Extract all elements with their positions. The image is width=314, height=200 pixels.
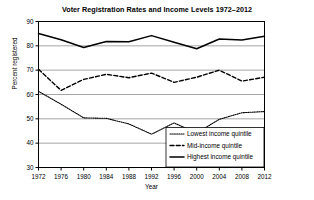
y-tick-label: 50: [26, 115, 34, 122]
x-tick-label: 1984: [99, 173, 114, 180]
y-tick-label: 90: [26, 18, 34, 25]
y-tick-label: 30: [26, 164, 34, 171]
x-tick-label: 1988: [122, 173, 137, 180]
y-tick-label: 70: [26, 66, 34, 73]
y-tick-label: 40: [26, 139, 34, 146]
y-tick-label: 60: [26, 91, 34, 98]
y-tick-label: 80: [26, 42, 34, 49]
series-line: [39, 33, 265, 48]
x-tick-label: 2000: [190, 173, 205, 180]
x-tick-label: 2012: [257, 173, 272, 180]
x-axis-ticks: 1972197619801984198819921996200020042008…: [31, 168, 272, 180]
y-axis-ticks: 30405060708090: [26, 18, 38, 171]
legend-label: Mid-income quintile: [187, 142, 242, 150]
x-tick-label: 1980: [77, 173, 92, 180]
x-tick-label: 2004: [212, 173, 227, 180]
x-tick-label: 2008: [235, 173, 250, 180]
legend-label: Highest income quintile: [187, 153, 254, 161]
series-line: [39, 69, 265, 90]
x-tick-label: 1976: [54, 173, 69, 180]
chart-legend: Lowest income quintileMid-income quintil…: [166, 128, 264, 168]
plot-area: 30405060708090 1972197619801984198819921…: [0, 0, 314, 200]
y-axis-label: Percent registered: [11, 19, 18, 109]
legend-label: Lowest income quintile: [187, 130, 252, 138]
chart-figure: Voter Registration Rates and Income Leve…: [0, 0, 314, 200]
x-axis-label: Year: [38, 183, 265, 190]
x-tick-label: 1996: [167, 173, 182, 180]
x-tick-label: 1992: [144, 173, 159, 180]
x-tick-label: 1972: [31, 173, 46, 180]
